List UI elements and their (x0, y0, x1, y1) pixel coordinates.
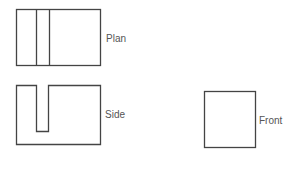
plan-outline (17, 10, 101, 66)
plan-label: Plan (106, 34, 126, 44)
front-label: Front (259, 116, 282, 126)
front-outline (205, 92, 256, 148)
front-view (205, 92, 256, 148)
plan-view (17, 10, 101, 66)
orthographic-views-diagram (0, 0, 291, 171)
side-view (17, 86, 101, 145)
side-outline (17, 86, 101, 145)
side-label: Side (105, 110, 125, 120)
